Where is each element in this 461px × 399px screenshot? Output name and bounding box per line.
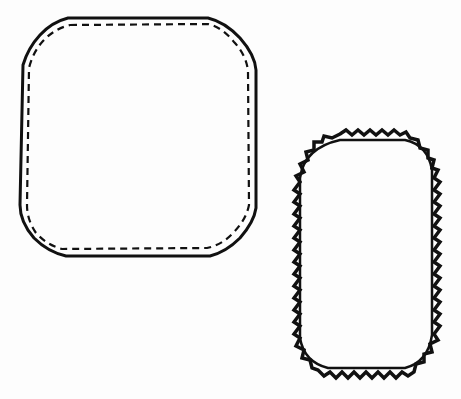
- rectangle-zigzag-stitch: [292, 135, 446, 375]
- square-outer-edge: [20, 18, 256, 256]
- rectangle-inner-edge: [300, 140, 432, 368]
- illustration-canvas: [0, 0, 461, 399]
- rounded-square-patch: [20, 18, 256, 256]
- rounded-rectangle-patch: [292, 130, 446, 378]
- rectangle-zigzag-outline: [294, 130, 440, 378]
- square-dashed-stitch: [27, 24, 249, 249]
